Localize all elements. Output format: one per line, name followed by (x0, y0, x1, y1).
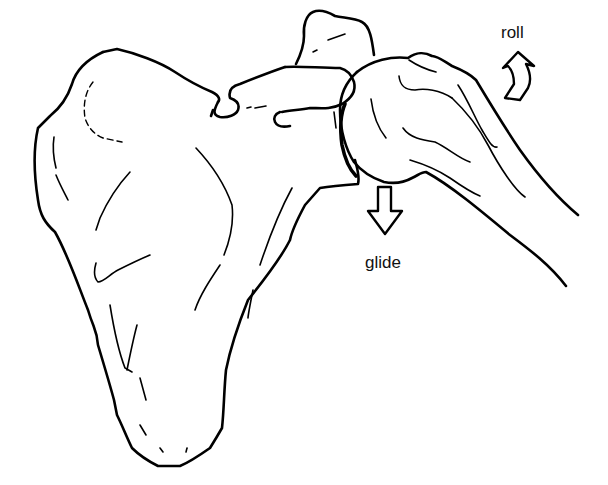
roll-arrow-icon (503, 52, 534, 100)
humerus (340, 53, 578, 286)
scapula (35, 11, 374, 466)
roll-label: roll (501, 24, 524, 41)
diagram-canvas (0, 0, 608, 485)
shoulder-diagram: roll glide (0, 0, 608, 485)
glide-label: glide (365, 254, 401, 271)
glide-arrow-icon (368, 187, 402, 234)
